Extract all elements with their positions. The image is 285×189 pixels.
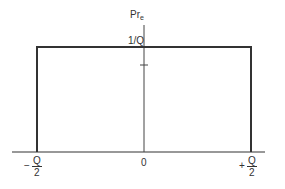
y-axis-label-subscript: e	[140, 14, 144, 21]
level-label: 1/Q	[128, 36, 144, 46]
y-axis-label-main: Pr	[130, 9, 140, 20]
left-tick-numerator: Q	[32, 156, 42, 167]
right-tick-numerator: Q	[247, 156, 257, 167]
y-axis-label: Pre	[130, 10, 144, 21]
right-tick-denominator: 2	[249, 168, 255, 178]
left-tick-fraction: Q 2	[32, 156, 42, 178]
center-tick-label: 0	[141, 158, 147, 168]
left-tick-denominator: 2	[34, 168, 40, 178]
right-tick-sign: +	[239, 161, 245, 171]
left-tick-sign: −	[24, 161, 30, 171]
right-tick-fraction: Q 2	[247, 156, 257, 178]
